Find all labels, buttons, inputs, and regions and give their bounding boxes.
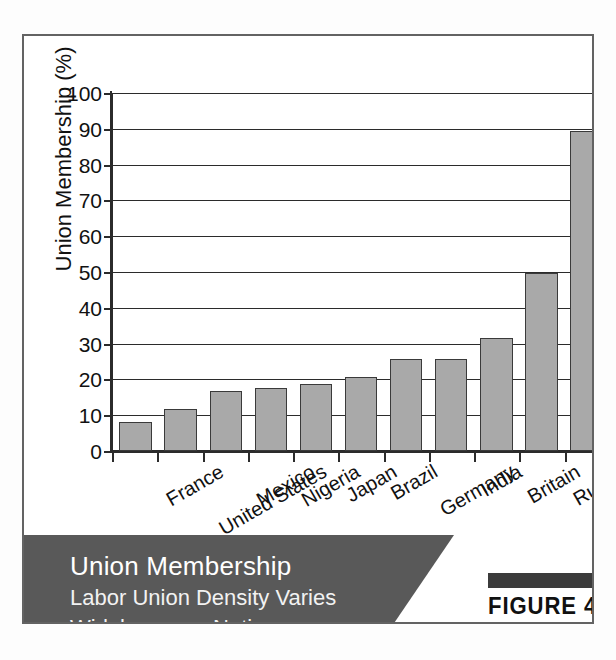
bar-slot: [429, 93, 474, 451]
bar-slot: [158, 93, 203, 451]
y-tick-label-90: 90: [40, 118, 102, 139]
x-tick-label-france: France: [162, 460, 227, 511]
plot-area-wrapper: [112, 93, 594, 451]
bar-slot: [293, 93, 338, 451]
bar-slot: [384, 93, 429, 451]
y-tick-label-0: 0: [40, 441, 102, 462]
bar-slot: [113, 93, 158, 451]
bar-russia[interactable]: [525, 273, 557, 451]
y-tick-label-50: 50: [40, 262, 102, 283]
y-tick-label-70: 70: [40, 190, 102, 211]
bar-france[interactable]: [119, 422, 151, 451]
bar-united-states[interactable]: [164, 409, 196, 451]
bar-britain[interactable]: [480, 338, 512, 451]
bar-mexico[interactable]: [210, 391, 242, 451]
y-tick-label-80: 80: [40, 154, 102, 175]
bar-series: [112, 93, 594, 451]
caption-subtitle-line-1: Labor Union Density Varies: [70, 585, 336, 611]
bar-slot: [338, 93, 383, 451]
bar-india[interactable]: [435, 359, 467, 451]
bar-slot: [474, 93, 519, 451]
y-tick-label-20: 20: [40, 369, 102, 390]
figure-frame: Union Membership (%) 0102030405060708090…: [22, 34, 594, 624]
bar-brazil[interactable]: [345, 377, 377, 451]
caption-banner: Union Membership Labor Union Density Var…: [24, 535, 454, 624]
bar-slot: [519, 93, 564, 451]
bar-slot: [203, 93, 248, 451]
bar-china[interactable]: [570, 131, 594, 451]
y-tick-label-10: 10: [40, 405, 102, 426]
y-tick-label-40: 40: [40, 297, 102, 318]
figure-number-label: FIGURE 4.1: [488, 592, 594, 620]
bar-slot: [564, 93, 594, 451]
bar-germany[interactable]: [390, 359, 422, 451]
y-axis-tick-labels: 0102030405060708090100: [24, 93, 102, 451]
bar-nigeria[interactable]: [255, 388, 287, 451]
figure-number-accent-bar: [488, 573, 594, 588]
bar-japan[interactable]: [300, 384, 332, 451]
caption-title: Union Membership: [70, 551, 291, 582]
y-tick-label-30: 30: [40, 333, 102, 354]
figure-page: Union Membership (%) 0102030405060708090…: [0, 0, 616, 660]
x-tick-label-brazil: Brazil: [387, 460, 442, 505]
bar-slot: [248, 93, 293, 451]
y-tick-label-100: 100: [40, 83, 102, 104]
caption-subtitle-line-2: Widely across Nations: [70, 615, 288, 624]
figure-number-block: FIGURE 4.1: [488, 573, 594, 620]
y-tick-label-60: 60: [40, 226, 102, 247]
